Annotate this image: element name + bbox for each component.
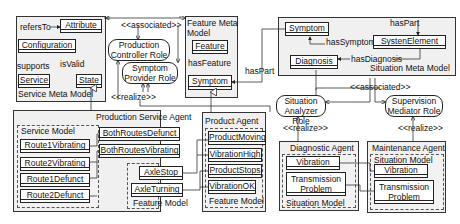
- connector-lines: [0, 0, 460, 224]
